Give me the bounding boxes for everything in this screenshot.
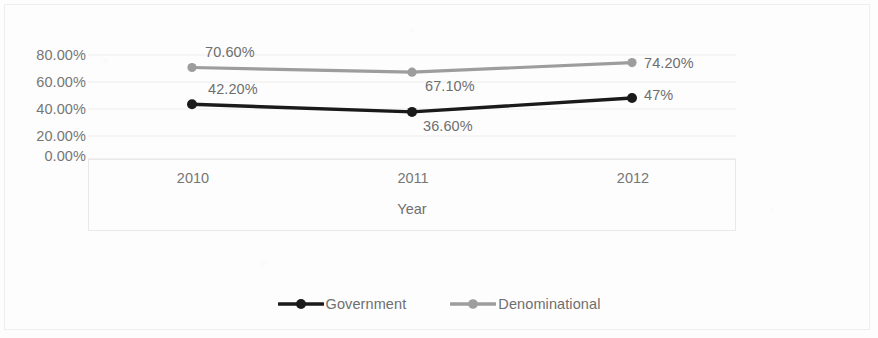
chart-figure: 80.00% 60.00% 40.00% 20.00% 0.00%: [0, 0, 878, 338]
x-tick-2012: 2012: [617, 170, 649, 186]
series-denominational: [187, 58, 636, 77]
government-point-2012: [627, 93, 637, 103]
x-axis-title: Year: [397, 201, 426, 217]
x-tick-2010: 2010: [177, 170, 209, 186]
data-label-denominational-2011: 67.10%: [425, 78, 475, 94]
y-tick-60: 60.00%: [0, 74, 86, 90]
denominational-point-2011: [407, 68, 416, 77]
data-label-denominational-2010: 70.60%: [205, 44, 255, 60]
legend-item-government[interactable]: Government: [278, 296, 407, 312]
legend-label-denominational: Denominational: [498, 296, 600, 312]
data-label-government-2010: 42.20%: [208, 81, 258, 97]
data-label-denominational-2012: 74.20%: [644, 55, 694, 71]
chart-legend: Government Denominational: [0, 296, 878, 312]
y-tick-40: 40.00%: [0, 101, 86, 117]
y-axis-tick-labels: 80.00% 60.00% 40.00% 20.00% 0.00%: [0, 0, 86, 338]
chart-canvas: [88, 22, 736, 162]
data-label-government-2011: 36.60%: [423, 118, 473, 134]
data-label-government-2012: 47%: [644, 87, 673, 103]
y-tick-0: 0.00%: [0, 148, 86, 164]
legend-item-denominational[interactable]: Denominational: [450, 296, 600, 312]
legend-marker-denominational-icon: [450, 297, 496, 311]
x-tick-2011: 2011: [397, 170, 428, 186]
y-tick-20: 20.00%: [0, 128, 86, 144]
y-tick-80: 80.00%: [0, 47, 86, 63]
government-point-2010: [187, 99, 197, 109]
legend-label-government: Government: [326, 296, 407, 312]
government-point-2011: [407, 107, 417, 117]
x-axis-box: 2010 2011 2012 Year: [88, 159, 736, 231]
plot-area: 70.60% 67.10% 74.20% 42.20% 36.60% 47%: [88, 22, 736, 162]
denominational-point-2012: [627, 58, 636, 67]
legend-marker-government-icon: [278, 297, 324, 311]
denominational-point-2010: [187, 63, 196, 72]
